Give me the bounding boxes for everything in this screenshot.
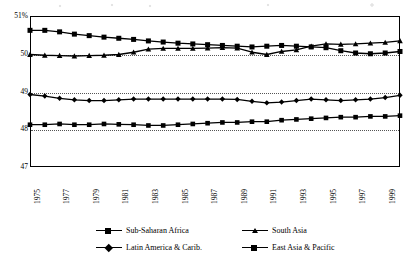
x-tick-label: 1989 [241,189,249,204]
y-tick-label: 47 [2,163,28,171]
gridline [31,55,399,56]
y-tick-label: 51% [2,12,28,20]
y-tick-label: 49 [2,88,28,96]
x-tick-label: 1987 [211,189,219,204]
x-tick-label: 1985 [182,189,190,204]
legend-marker-diamond-icon [96,244,122,252]
legend-item-east-asia-pacific[interactable]: East Asia & Pacific [242,243,366,252]
gridline [31,130,399,131]
legend-label: Sub-Saharan Africa [126,226,189,235]
legend-label: East Asia & Pacific [272,243,334,252]
legend-item-south-asia[interactable]: South Asia [242,226,366,235]
x-tick-label: 1997 [359,189,367,204]
x-tick-label: 1975 [34,189,42,204]
gridline [31,93,399,94]
legend-marker-square-icon [96,227,122,235]
plot-area [30,16,400,167]
x-tick-label: 1977 [63,189,71,204]
x-axis-tick-labels: 1975197719791981198319851987198919911993… [30,170,400,212]
x-tick-label: 1981 [122,189,130,204]
legend-item-latin-america-carib[interactable]: Latin America & Carib. [96,243,242,252]
y-axis-tick-labels: 4748495051% [0,0,28,200]
x-tick-label: 1993 [300,189,308,204]
x-tick-label: 1991 [270,189,278,204]
cropped-caption-artifact [0,0,418,13]
x-tick-label: 1995 [330,189,338,204]
legend-marker-triangle-icon [242,227,268,235]
chart-figure: 4748495051% 1975197719791981198319851987… [0,0,418,261]
legend-label: South Asia [272,226,307,235]
y-tick-label: 48 [2,125,28,133]
x-tick-label: 1983 [152,189,160,204]
legend-label: Latin America & Carib. [126,243,202,252]
x-tick-label: 1979 [93,189,101,204]
chart-legend: Sub-Saharan Africa South Asia Latin Amer… [96,222,366,256]
x-tick-label: 1999 [389,189,397,204]
y-tick-label: 50 [2,50,28,58]
legend-marker-square-icon [242,244,268,252]
legend-item-sub-saharan-africa[interactable]: Sub-Saharan Africa [96,226,242,235]
